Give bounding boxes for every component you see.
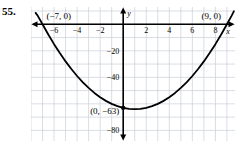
annotation-right-root: (9, 0): [201, 11, 221, 21]
marked-points: [121, 106, 125, 110]
x-tick-label-2: −2: [96, 26, 105, 35]
point-marker-y-intercept: [121, 106, 125, 110]
coordinate-plot: −6−4−22468−20−40−80xy (−7, 0)(9, 0)(0, −…: [31, 7, 235, 141]
annotation-left-root: (−7, 0): [47, 11, 72, 21]
x-axis-name: x: [225, 27, 230, 36]
plot-svg: −6−4−22468−20−40−80xy (−7, 0)(9, 0)(0, −…: [31, 7, 235, 141]
y-tick-label-1: −40: [107, 73, 120, 82]
y-axis-name: y: [126, 9, 131, 18]
x-tick-label-5: 6: [190, 26, 194, 35]
x-tick-label-6: 8: [213, 26, 217, 35]
problem-number: 55.: [2, 5, 16, 17]
x-tick-label-4: 4: [167, 26, 171, 35]
y-tick-label-0: −20: [107, 47, 120, 56]
x-tick-label-1: −4: [73, 26, 82, 35]
y-tick-label-2: −80: [107, 126, 120, 135]
annotation-y-intercept: (0, −63): [90, 106, 119, 116]
x-tick-label-0: −6: [50, 26, 59, 35]
x-tick-label-3: 2: [144, 26, 148, 35]
graph-figure: 55. −6−4−22468−20−40−80xy (−7, 0)(9, 0)(…: [0, 0, 245, 148]
plot-background: [31, 7, 235, 141]
